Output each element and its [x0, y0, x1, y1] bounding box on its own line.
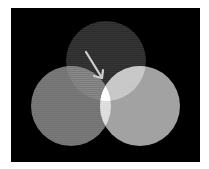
venn-diagram	[0, 0, 209, 169]
